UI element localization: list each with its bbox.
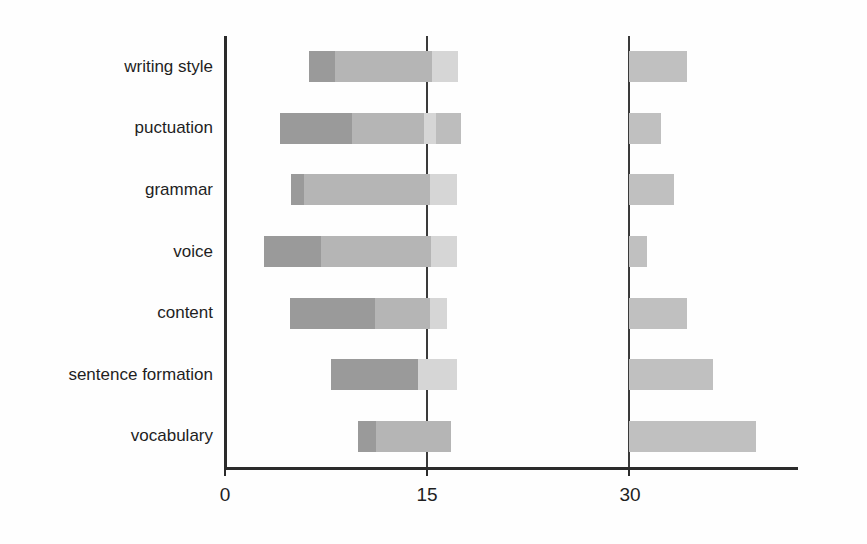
bar-segment <box>358 421 376 452</box>
bar-segment <box>335 51 432 82</box>
xtick-label-30: 30 <box>619 484 640 506</box>
bar-segment <box>424 113 436 144</box>
x-axis-line <box>224 467 798 470</box>
bar-segment-right <box>629 51 687 82</box>
bar-segment <box>375 298 430 329</box>
category-label-vocabulary: vocabulary <box>3 427 213 444</box>
bar-segment-right <box>629 236 647 267</box>
bar-segment <box>376 421 451 452</box>
bar-segment <box>304 174 429 205</box>
xtick-label-15: 15 <box>416 484 437 506</box>
category-label-voice: voice <box>3 243 213 260</box>
tick-mark-15 <box>426 467 428 476</box>
bar-segment <box>309 51 336 82</box>
xtick-label-0: 0 <box>220 484 231 506</box>
bar-segment <box>290 298 375 329</box>
bar-segment-right <box>629 421 756 452</box>
bar-segment-right <box>629 113 661 144</box>
bar-segment <box>430 298 448 329</box>
tick-mark-0 <box>224 467 226 476</box>
bar-segment <box>431 236 457 267</box>
category-label-writing-style: writing style <box>3 58 213 75</box>
bar-segment <box>432 51 458 82</box>
bar-segment-right <box>629 174 673 205</box>
category-label-content: content <box>3 304 213 321</box>
bar-segment <box>331 359 417 390</box>
bar-segment <box>264 236 321 267</box>
tick-mark-30 <box>628 467 630 476</box>
bar-segment <box>430 174 457 205</box>
category-label-grammar: grammar <box>3 181 213 198</box>
bar-segment <box>352 113 425 144</box>
bar-segment <box>418 359 457 390</box>
bar-segment <box>321 236 431 267</box>
bar-segment <box>280 113 351 144</box>
bar-segment-right <box>629 359 713 390</box>
bar-segment <box>436 113 460 144</box>
bar-segment <box>291 174 304 205</box>
bar-segment-right <box>629 298 687 329</box>
category-label-puctuation: puctuation <box>3 119 213 136</box>
plot-area: writing stylepuctuationgrammarvoiceconte… <box>0 0 867 544</box>
chart-container: writing stylepuctuationgrammarvoiceconte… <box>0 0 867 544</box>
category-label-sentence-formation: sentence formation <box>3 366 213 383</box>
